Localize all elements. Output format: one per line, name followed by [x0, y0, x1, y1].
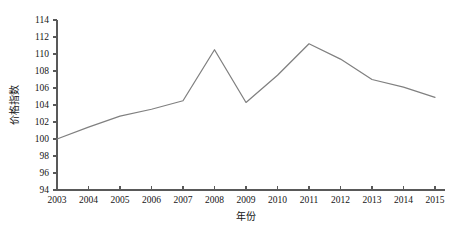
- y-axis-tick-labels: 949698100102104106108110112114: [35, 15, 50, 195]
- x-tick-label: 2004: [79, 195, 98, 205]
- data-series-line: [57, 44, 435, 139]
- y-axis-tick-marks: [53, 20, 57, 190]
- x-tick-label: 2010: [268, 195, 287, 205]
- x-tick-label: 2008: [205, 195, 224, 205]
- x-tick-label: 2012: [331, 195, 350, 205]
- x-tick-label: 2003: [48, 195, 67, 205]
- x-tick-label: 2011: [300, 195, 319, 205]
- x-tick-label: 2009: [237, 195, 256, 205]
- y-tick-label: 100: [35, 134, 50, 144]
- y-tick-label: 114: [35, 15, 49, 25]
- x-axis-tick-marks: [57, 186, 435, 190]
- x-tick-label: 2005: [111, 195, 130, 205]
- y-tick-label: 104: [35, 100, 50, 110]
- y-tick-label: 98: [40, 151, 50, 161]
- y-tick-label: 96: [40, 168, 50, 178]
- x-axis-tick-labels: 2003200420052006200720082009201020112012…: [48, 195, 445, 205]
- x-tick-label: 2007: [174, 195, 193, 205]
- x-tick-label: 2013: [363, 195, 382, 205]
- y-tick-label: 112: [35, 32, 49, 42]
- x-axis-title: 年份: [236, 210, 256, 222]
- y-tick-label: 110: [35, 49, 49, 59]
- x-tick-label: 2015: [426, 195, 445, 205]
- y-axis-title: 价格指数: [8, 85, 20, 125]
- line-chart: 949698100102104106108110112114 200320042…: [0, 0, 461, 240]
- x-tick-label: 2006: [142, 195, 161, 205]
- y-tick-label: 108: [35, 66, 50, 76]
- y-tick-label: 102: [35, 117, 50, 127]
- y-tick-label: 94: [40, 185, 50, 195]
- chart-canvas: 949698100102104106108110112114 200320042…: [0, 0, 461, 240]
- x-tick-label: 2014: [394, 195, 413, 205]
- y-tick-label: 106: [35, 83, 50, 93]
